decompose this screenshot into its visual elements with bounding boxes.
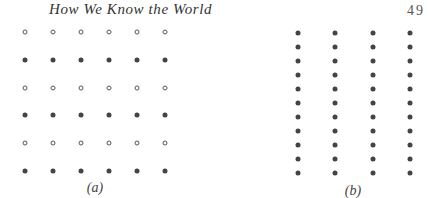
filled-dot-icon [371, 45, 376, 50]
filled-dot-icon [333, 45, 338, 50]
filled-dot-icon [296, 87, 301, 92]
filled-dot-icon [408, 59, 413, 64]
filled-dot-icon [371, 87, 376, 92]
filled-dot-icon [296, 143, 301, 148]
filled-dot-icon [333, 171, 338, 176]
filled-dot-icon [371, 143, 376, 148]
figure-a-caption: (a) [87, 180, 103, 196]
filled-dot-icon [333, 31, 338, 36]
filled-dot-icon [408, 157, 413, 162]
filled-dot-icon [333, 157, 338, 162]
figure-b-dot-grid [0, 0, 439, 198]
filled-dot-icon [408, 45, 413, 50]
filled-dot-icon [296, 101, 301, 106]
filled-dot-icon [333, 87, 338, 92]
figure-b-caption: (b) [345, 183, 361, 198]
filled-dot-icon [333, 143, 338, 148]
filled-dot-icon [371, 101, 376, 106]
filled-dot-icon [371, 157, 376, 162]
filled-dot-icon [371, 73, 376, 78]
filled-dot-icon [408, 101, 413, 106]
filled-dot-icon [296, 73, 301, 78]
filled-dot-icon [333, 73, 338, 78]
filled-dot-icon [296, 129, 301, 134]
filled-dot-icon [333, 115, 338, 120]
filled-dot-icon [296, 157, 301, 162]
filled-dot-icon [296, 171, 301, 176]
filled-dot-icon [371, 115, 376, 120]
filled-dot-icon [333, 129, 338, 134]
filled-dot-icon [296, 59, 301, 64]
filled-dot-icon [296, 45, 301, 50]
filled-dot-icon [296, 31, 301, 36]
filled-dot-icon [333, 59, 338, 64]
filled-dot-icon [333, 101, 338, 106]
filled-dot-icon [371, 171, 376, 176]
filled-dot-icon [408, 129, 413, 134]
filled-dot-icon [371, 129, 376, 134]
filled-dot-icon [408, 115, 413, 120]
filled-dot-icon [296, 115, 301, 120]
filled-dot-icon [408, 171, 413, 176]
filled-dot-icon [408, 73, 413, 78]
filled-dot-icon [408, 143, 413, 148]
filled-dot-icon [371, 59, 376, 64]
filled-dot-icon [408, 31, 413, 36]
filled-dot-icon [408, 87, 413, 92]
filled-dot-icon [371, 31, 376, 36]
